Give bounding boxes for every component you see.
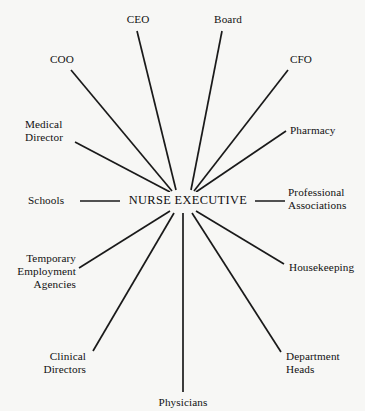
node-label-temporary-employment-agencies: Temporary Employment Agencies bbox=[8, 252, 76, 292]
spoke-line-pharmacy bbox=[196, 131, 286, 192]
node-label-department-heads: Department Heads bbox=[286, 350, 358, 376]
spoke-line-cfo bbox=[194, 70, 288, 191]
node-label-coo: COO bbox=[40, 53, 84, 66]
node-label-physicians: Physicians bbox=[147, 396, 219, 409]
node-label-cfo: CFO bbox=[280, 53, 322, 66]
node-label-board: Board bbox=[205, 13, 251, 26]
spoke-line-board bbox=[191, 31, 222, 190]
spoke-line-temporary-employment-agencies bbox=[79, 211, 170, 268]
node-label-ceo: CEO bbox=[118, 13, 158, 26]
node-label-schools: Schools bbox=[28, 194, 76, 207]
node-label-clinical-directors: Clinical Directors bbox=[20, 350, 86, 376]
spoke-line-department-heads bbox=[192, 213, 281, 352]
node-label-pharmacy: Pharmacy bbox=[290, 124, 352, 137]
node-label-medical-director: Medical Director bbox=[25, 118, 87, 144]
spoke-line-medical-director bbox=[75, 142, 170, 192]
hub-label-nurse-executive: NURSE EXECUTIVE bbox=[121, 192, 255, 208]
spoke-line-ceo bbox=[137, 31, 176, 190]
node-label-professional-associations: Professional Associations bbox=[288, 186, 364, 212]
node-label-housekeeping: Housekeeping bbox=[289, 261, 363, 274]
radial-diagram-canvas: CEOBoardCOOCFOMedical DirectorPharmacySc… bbox=[0, 0, 365, 411]
spoke-line-housekeeping bbox=[196, 211, 284, 264]
